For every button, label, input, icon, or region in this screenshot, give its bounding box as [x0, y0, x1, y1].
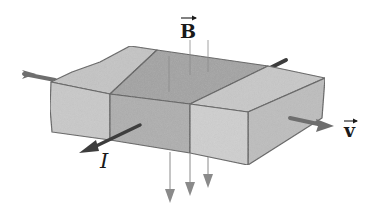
front-face-middle-segment: [110, 94, 190, 153]
front-face-right-segment: [190, 104, 248, 165]
magnetic-field-label: B: [180, 16, 197, 43]
field-arrow-1: [165, 152, 175, 203]
magnetic-field-symbol: B: [180, 20, 196, 42]
velocity-label: v: [343, 119, 358, 142]
velocity-symbol: v: [343, 119, 356, 141]
magnetic-field-arrows: [165, 152, 213, 203]
hall-effect-slab-diagram: B v I: [0, 0, 374, 213]
incoming-wire-arrow: [22, 70, 55, 80]
current-label: I: [99, 149, 109, 173]
field-arrow-2: [185, 154, 195, 196]
field-arrow-3: [203, 157, 213, 188]
